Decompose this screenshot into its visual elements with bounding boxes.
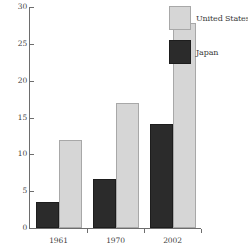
x-axis-tick — [201, 229, 202, 233]
x-axis-tick-label: 1961 — [39, 236, 79, 245]
bar-japan-2002 — [150, 124, 173, 228]
legend-label: United States — [196, 14, 248, 23]
legend-swatch-icon — [169, 6, 191, 30]
y-axis-tick-label: 30 — [7, 3, 27, 11]
bar-japan-1961 — [36, 202, 59, 228]
legend-label: Japan — [196, 48, 218, 57]
legend-swatch-icon — [169, 40, 191, 64]
bar-united-states-1970 — [116, 103, 139, 228]
bar-united-states-1961 — [59, 140, 82, 228]
legend-item-japan: Japan — [169, 40, 218, 64]
y-axis-tick-label: 0 — [7, 224, 27, 232]
legend-item-united-states: United States — [169, 6, 248, 30]
x-axis-tick — [87, 229, 88, 233]
bar-japan-1970 — [93, 179, 116, 228]
y-axis-tick-label: 20 — [7, 77, 27, 85]
y-axis-tick-label: 5 — [7, 187, 27, 195]
y-axis-tick-label: 10 — [7, 150, 27, 158]
y-axis-tick-label: 15 — [7, 114, 27, 122]
y-axis-tick — [30, 228, 34, 229]
x-axis-tick-label: 1970 — [96, 236, 136, 245]
x-axis-tick-label: 2002 — [153, 236, 193, 245]
x-axis-tick — [144, 229, 145, 233]
y-axis-tick-label: 25 — [7, 40, 27, 48]
bar-chart: 051015202530 196119702002 United StatesJ… — [0, 0, 248, 252]
x-axis-line — [29, 228, 201, 229]
